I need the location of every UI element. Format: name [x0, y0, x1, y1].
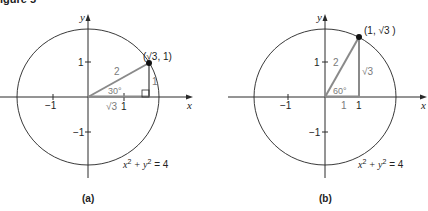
panel-label-b: (b)	[319, 193, 332, 204]
equation-b: x2 + y2 = 4	[357, 158, 404, 170]
equation-a: x2 + y2 = 4	[122, 158, 169, 170]
angle-label-a: 30°	[108, 86, 122, 96]
angle-label-b: 60°	[333, 86, 347, 96]
tick-label-y-pos-a: 1	[78, 57, 84, 68]
tick-label-y-neg-b: −1	[309, 127, 321, 138]
x-label-b: x	[420, 99, 426, 111]
y-label-b: y	[316, 11, 322, 23]
y-axis-arrow-icon	[323, 14, 328, 21]
tick-label-y-pos-b: 1	[314, 57, 320, 68]
point-label-a: (√3, 1)	[143, 51, 172, 62]
adjacent-label-a: √3	[106, 101, 117, 112]
y-label-a: y	[79, 11, 85, 23]
opposite-label-a: 1	[152, 76, 158, 87]
panel-a: y x −1 1 1 −1 (√3, 1) 2 1 √3 30° x2 + y2…	[0, 11, 193, 204]
figure-canvas: y x −1 1 1 −1 (√3, 1) 2 1 √3 30° x2 + y2…	[0, 0, 428, 211]
opposite-label-b: √3	[362, 66, 373, 77]
hypotenuse-label-b: 2	[333, 57, 339, 68]
hypotenuse-label-a: 2	[114, 66, 120, 77]
panel-label-a: (a)	[82, 193, 94, 204]
tick-label-x-neg-a: −1	[45, 100, 57, 111]
tick-label-y-neg-a: −1	[73, 127, 85, 138]
point-marker-b	[356, 34, 362, 40]
point-label-b: (1, √3 )	[364, 25, 396, 36]
tick-label-x-neg-b: −1	[280, 100, 292, 111]
adjacent-label-b: 1	[341, 100, 347, 111]
x-label-a: x	[186, 99, 192, 111]
foot-label-b: 1	[356, 100, 362, 111]
panel-b: y x −1 1 1 1 −1 (1, √3 ) 2 √3 60° x2 + y…	[228, 11, 427, 204]
tick-label-x-pos-a: 1	[121, 101, 127, 112]
y-axis-arrow-icon	[86, 14, 91, 21]
